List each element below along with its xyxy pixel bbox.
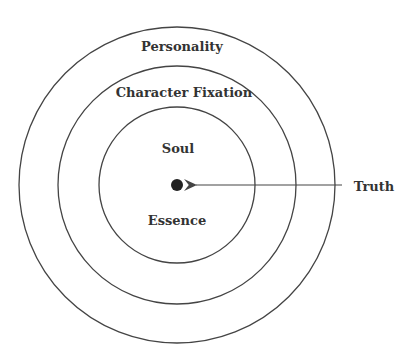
label-truth: Truth	[354, 179, 395, 194]
center-dot	[171, 179, 183, 191]
label-personality: Personality	[141, 39, 223, 54]
label-essence: Essence	[148, 213, 206, 228]
label-character-fixation: Character Fixation	[116, 85, 252, 100]
label-soul: Soul	[162, 141, 194, 156]
